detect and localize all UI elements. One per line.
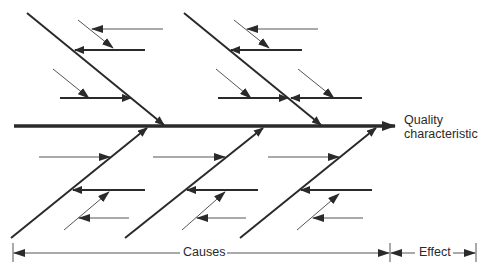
bone-top-left [27, 13, 164, 125]
effect-label-line1: Quality [404, 113, 478, 127]
effect-label: Quality characteristic [404, 113, 478, 141]
bone-bottom-right [240, 128, 376, 238]
bone-top-right [184, 13, 362, 125]
bone-bottom-left [11, 128, 147, 238]
bone-bottom-middle [125, 128, 263, 238]
effect-label-line2: characteristic [404, 127, 478, 141]
effect-dimension-label: Effect [417, 245, 453, 259]
causes-label: Causes [181, 245, 227, 259]
